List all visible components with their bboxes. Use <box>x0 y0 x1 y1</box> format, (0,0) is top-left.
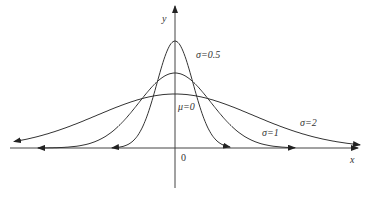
sigma-1-curve-left <box>38 73 175 148</box>
sigma-2-curve-left <box>14 94 175 142</box>
x-axis-label: x <box>349 154 355 165</box>
sigma-2-label: σ=2 <box>300 117 317 128</box>
sigma-1-label: σ=1 <box>262 127 279 138</box>
normal-distribution-chart: y x 0 μ=0 σ=0.5 σ=1 σ=2 <box>0 0 369 199</box>
y-axis-label: y <box>161 13 167 24</box>
curves <box>14 41 360 148</box>
sigma-0-5-label: σ=0.5 <box>196 49 220 60</box>
mu-annotation: μ=0 <box>177 101 195 112</box>
origin-label: 0 <box>181 152 186 163</box>
